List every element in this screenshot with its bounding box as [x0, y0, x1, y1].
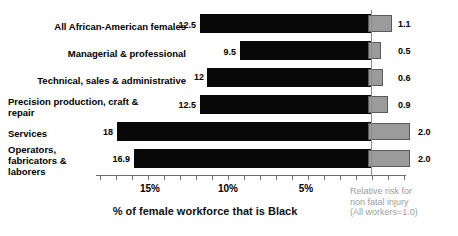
bar-percent — [207, 68, 371, 87]
axis-tick — [116, 176, 117, 180]
value-label-risk: 2.0 — [418, 154, 458, 164]
value-label-percent: 18 — [78, 127, 113, 137]
value-label-risk: 1.1 — [398, 19, 438, 29]
axis-tick — [404, 176, 405, 180]
bar-percent — [200, 14, 371, 33]
bar-relative-risk — [368, 123, 410, 140]
axis-tick — [276, 176, 277, 180]
value-label-percent: 12 — [166, 72, 204, 82]
axis-tick — [372, 176, 373, 180]
axis-tick — [228, 176, 229, 180]
axis-tick — [356, 176, 357, 180]
value-label-percent: 12.5 — [158, 100, 196, 110]
x-axis-title: % of female workforce that is Black — [70, 205, 340, 217]
bar-percent — [200, 95, 371, 114]
bar-percent — [134, 149, 371, 168]
value-label-percent: 16.9 — [92, 154, 130, 164]
axis-tick — [180, 176, 181, 180]
value-label-risk: 2.0 — [418, 127, 458, 137]
axis-tick — [308, 176, 309, 180]
axis-tick — [196, 176, 197, 180]
bar-relative-risk — [368, 42, 381, 59]
legend-note-relative-risk: Relative risk for non fatal injury (All … — [350, 186, 458, 218]
reference-line-all-workers — [371, 10, 372, 176]
axis-tick — [340, 176, 341, 180]
value-label-risk: 0.5 — [398, 46, 438, 56]
category-label: Technical, sales & administrative — [8, 75, 186, 86]
value-label-risk: 0.9 — [398, 100, 438, 110]
chart-canvas: All African-American females 12.5 1.1 Ma… — [0, 0, 458, 236]
axis-tick-label: 5% — [289, 183, 323, 194]
axis-tick — [292, 176, 293, 180]
value-label-risk: 0.6 — [398, 73, 438, 83]
category-label: Managerial & professional — [8, 48, 186, 59]
axis-tick-label: 15% — [130, 183, 170, 194]
value-label-percent: 9.5 — [198, 47, 236, 57]
axis-tick — [148, 176, 149, 180]
axis-tick — [212, 176, 213, 180]
bar-percent — [240, 41, 371, 60]
x-axis-line — [96, 175, 406, 176]
axis-tick-label: 10% — [208, 183, 248, 194]
axis-tick — [132, 176, 133, 180]
bar-relative-risk — [368, 150, 410, 167]
axis-tick — [244, 176, 245, 180]
value-label-percent: 12.5 — [158, 20, 196, 30]
axis-tick — [100, 176, 101, 180]
axis-tick — [260, 176, 261, 180]
axis-tick — [388, 176, 389, 180]
axis-tick — [324, 176, 325, 180]
bar-percent — [117, 122, 371, 141]
axis-tick — [164, 176, 165, 180]
